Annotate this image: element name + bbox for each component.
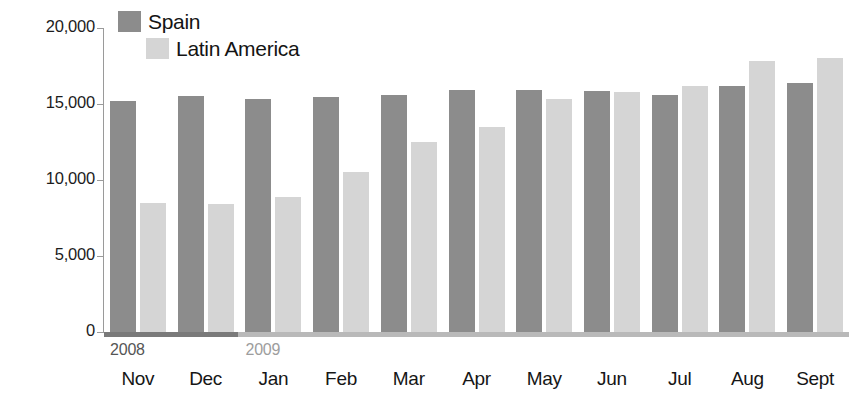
x-axis-baseline (104, 332, 849, 337)
x-axis-month-label: May (510, 368, 578, 390)
bar-group (584, 12, 640, 332)
y-axis-tick (97, 332, 104, 333)
bar-latin-america (614, 92, 640, 332)
x-axis-month-label: Apr (443, 368, 511, 390)
y-axis-tick-label: 10,000 (5, 169, 95, 188)
bar-latin-america (140, 203, 166, 332)
bar-group (178, 12, 234, 332)
plot-area (104, 12, 849, 332)
x-axis-month-label: Feb (307, 368, 375, 390)
bar-latin-america (208, 204, 234, 332)
bar-latin-america (546, 99, 572, 332)
x-axis-month-label: Jun (578, 368, 646, 390)
bar-latin-america (749, 61, 775, 332)
x-axis-month-label: Mar (375, 368, 443, 390)
bar-spain (178, 96, 204, 332)
bar-group (719, 12, 775, 332)
y-axis-tick-label: 5,000 (5, 245, 95, 264)
bar-group (449, 12, 505, 332)
y-axis-tick (97, 28, 104, 29)
bar-latin-america (682, 86, 708, 332)
bar-latin-america (275, 197, 301, 332)
x-axis-month-label: Nov (104, 368, 172, 390)
x-axis-month-label: Jan (239, 368, 307, 390)
y-axis-tick-label: 0 (5, 321, 95, 340)
bar-latin-america (411, 142, 437, 332)
bar-group (516, 12, 572, 332)
bar-spain (245, 99, 271, 332)
x-axis-month-label: Aug (714, 368, 782, 390)
bar-spain (381, 95, 407, 332)
bar-group (652, 12, 708, 332)
bar-spain (584, 91, 610, 332)
x-axis-year-label: 2009 (245, 341, 280, 359)
baseline-segment-2009 (238, 332, 849, 337)
bar-group (313, 12, 369, 332)
bar-group (381, 12, 437, 332)
bar-group (110, 12, 166, 332)
y-axis-tick (97, 104, 104, 105)
y-axis-tick-label: 15,000 (5, 93, 95, 112)
y-axis-tick-label: 20,000 (5, 17, 95, 36)
y-axis-tick (97, 256, 104, 257)
bar-spain (313, 97, 339, 332)
bar-spain (719, 86, 745, 332)
bar-spain (449, 90, 475, 332)
baseline-segment-2008 (104, 332, 238, 337)
bar-spain (652, 95, 678, 332)
x-axis-month-label: Dec (172, 368, 240, 390)
x-axis-month-label: Sept (781, 368, 849, 390)
bar-latin-america (343, 172, 369, 332)
bar-group (245, 12, 301, 332)
y-axis-tick (97, 180, 104, 181)
bar-group (787, 12, 843, 332)
bar-spain (110, 101, 136, 332)
bar-spain (516, 90, 542, 332)
x-axis-month-label: Jul (646, 368, 714, 390)
bar-chart: Spain Latin America 05,00010,00015,00020… (0, 0, 855, 414)
bar-latin-america (817, 58, 843, 332)
bar-spain (787, 83, 813, 332)
bar-latin-america (479, 127, 505, 332)
x-axis-year-label: 2008 (110, 341, 145, 359)
